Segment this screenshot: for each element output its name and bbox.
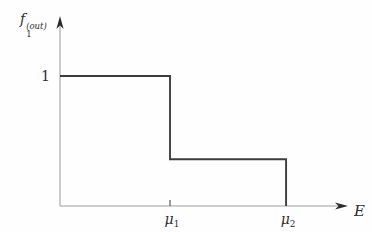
y-tick-label-1: 1	[41, 69, 50, 83]
step-function-plot: f(out)1 1 μ1 μ2 E	[0, 0, 372, 232]
y-axis-label-base: f	[20, 11, 25, 27]
y-axis-label-subscript: 1	[26, 30, 31, 38]
mu2-subscript: 2	[290, 219, 296, 229]
x-tick-label-mu2: μ2	[281, 212, 296, 226]
y-axis-label-scripts: (out)1	[26, 22, 47, 38]
mu2-base: μ	[281, 211, 290, 227]
mu1-subscript: 1	[174, 219, 180, 229]
x-tick-label-mu1: μ1	[165, 212, 180, 226]
plot-canvas	[0, 0, 372, 232]
mu1-base: μ	[165, 211, 174, 227]
x-axis-label: E	[354, 204, 365, 219]
y-axis-label: f(out)1	[20, 12, 47, 38]
